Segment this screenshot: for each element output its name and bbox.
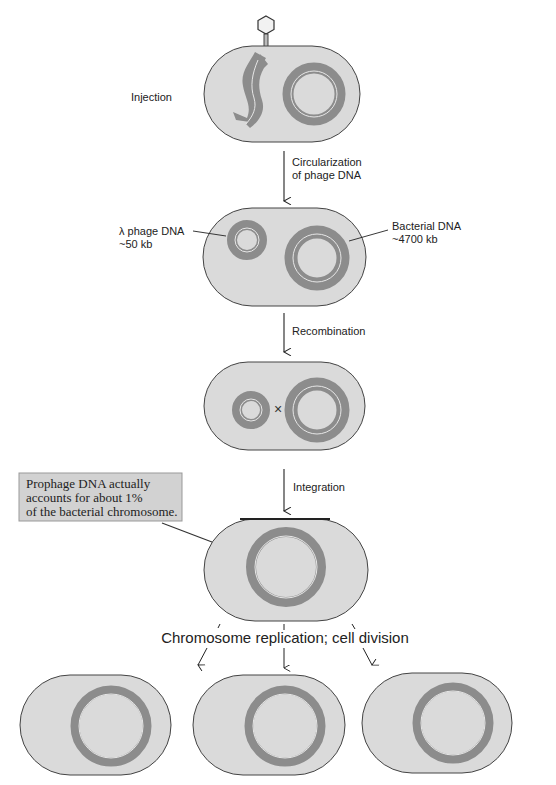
circularization-label-line2: of phage DNA [292, 169, 362, 181]
callout-box: Prophage DNA actually accounts for about… [19, 473, 182, 521]
daughter-cell-right [362, 673, 512, 773]
bacterial-label-line2: ~4700 kb [392, 233, 438, 245]
daughter-cell-middle [193, 675, 345, 775]
lysogeny-diagram: Injection Circularization of phage DNA λ… [0, 0, 556, 785]
stage-recombination: × [204, 362, 365, 450]
lambda-label-line2: ~50 kb [119, 238, 152, 250]
stage-integration [204, 519, 368, 621]
callout-line1: Prophage DNA actually [26, 476, 151, 491]
phage-icon [258, 16, 274, 48]
crossover-mark: × [274, 401, 282, 417]
callout-line2: accounts for about 1% [26, 490, 143, 505]
circularization-label-line1: Circularization [292, 156, 362, 168]
bacterial-label-line1: Bacterial DNA [392, 220, 462, 232]
integration-label: Integration [293, 481, 345, 493]
stage-circularization: λ phage DNA ~50 kb Bacterial DNA ~4700 k… [119, 208, 462, 306]
recombination-label: Recombination [292, 325, 365, 337]
stage-injection: Injection [131, 16, 360, 142]
callout-line3: of the bacterial chromosome. [26, 504, 178, 519]
lambda-label-line1: λ phage DNA [119, 225, 185, 237]
injection-label: Injection [131, 91, 172, 103]
daughter-cell-left [20, 675, 171, 775]
replication-label: Chromosome replication; cell division [161, 629, 409, 646]
